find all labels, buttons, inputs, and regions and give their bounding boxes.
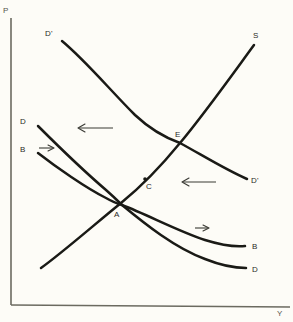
shift-arrow-middle-right — [182, 178, 216, 186]
point-marker-c — [143, 177, 147, 181]
y-axis-label: P — [3, 7, 9, 15]
curve-supply — [41, 45, 254, 268]
point-label-e: E — [175, 131, 181, 139]
shift-arrow-b-left — [39, 145, 54, 151]
point-label-c: C — [146, 183, 152, 191]
x-axis-label: Y — [277, 310, 283, 318]
figure-canvas — [0, 0, 293, 322]
curve-label-b-right: B — [252, 243, 258, 251]
curve-label-d-prime-top: D' — [45, 30, 53, 38]
curve-b — [38, 153, 245, 246]
curve-label-demand-left: D — [20, 118, 26, 126]
economics-supply-demand-figure: P Y D' S D B D' B D A C E — [0, 0, 293, 322]
x-axis-line — [11, 305, 290, 307]
curve-d-prime — [62, 41, 247, 179]
curve-label-supply-top: S — [253, 32, 259, 40]
shift-arrow-upper-left — [78, 124, 113, 132]
curve-label-demand-right: D — [252, 266, 258, 274]
curve-label-b-left: B — [20, 146, 26, 154]
curve-label-d-prime-right: D' — [251, 177, 259, 185]
shift-arrow-b-right — [195, 225, 209, 231]
point-label-a: A — [114, 211, 120, 219]
